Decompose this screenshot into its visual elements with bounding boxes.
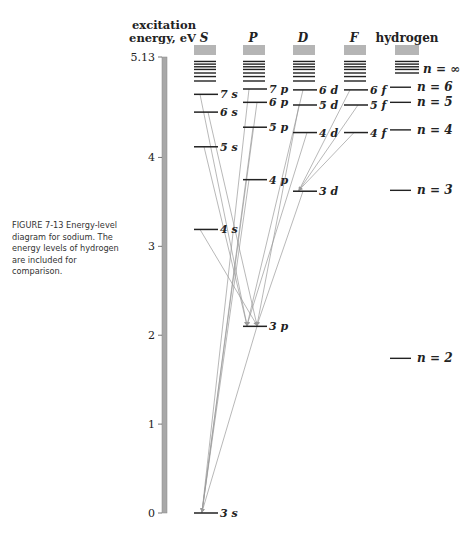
level-label-d: 5 d bbox=[319, 99, 338, 112]
level-label-s: 5 s bbox=[220, 141, 238, 154]
continuum-block bbox=[395, 45, 419, 55]
column-header-p: P bbox=[247, 31, 258, 45]
column-header-h: hydrogen bbox=[375, 31, 438, 45]
transition-line bbox=[200, 94, 247, 325]
level-label-f: 5 f bbox=[370, 99, 388, 112]
level-label-p: 6 p bbox=[269, 96, 288, 109]
axis-tick-label: 0 bbox=[148, 507, 155, 520]
energy-axis-bar bbox=[162, 57, 167, 513]
transition-line bbox=[202, 102, 257, 512]
level-label-p: 7 p bbox=[269, 83, 288, 96]
level-label-s: 7 s bbox=[220, 88, 238, 101]
level-label-h: n = 3 bbox=[417, 183, 452, 197]
continuum-block bbox=[243, 45, 265, 55]
level-label-h: n = ∞ bbox=[423, 62, 460, 76]
level-label-h: n = 5 bbox=[417, 95, 452, 109]
level-label-h: n = 2 bbox=[417, 351, 452, 365]
level-label-h: n = 6 bbox=[417, 80, 453, 94]
level-label-p: 4 p bbox=[269, 174, 288, 187]
level-label-s: 6 s bbox=[220, 106, 238, 119]
axis-tick-label: 1 bbox=[148, 418, 155, 431]
column-header-d: D bbox=[297, 31, 309, 45]
column-header-f: F bbox=[349, 31, 360, 45]
continuum-block bbox=[293, 45, 315, 55]
energy-level-diagram: 012345.13SPDFhydrogen3 s4 s5 s6 s7 s3 p4… bbox=[0, 0, 470, 539]
level-label-h: n = 4 bbox=[417, 123, 452, 137]
level-label-f: 4 f bbox=[370, 127, 388, 140]
level-label-f: 6 f bbox=[370, 84, 388, 97]
axis-tick-label: 5.13 bbox=[131, 51, 156, 64]
axis-tick-label: 2 bbox=[148, 329, 155, 342]
transition-line bbox=[257, 191, 303, 325]
column-header-s: S bbox=[200, 31, 209, 45]
level-label-s: 3 s bbox=[220, 507, 238, 520]
transition-line bbox=[299, 105, 358, 190]
level-label-p: 5 p bbox=[269, 121, 288, 134]
level-label-p: 3 p bbox=[269, 320, 288, 333]
transition-line bbox=[299, 133, 354, 191]
continuum-block bbox=[194, 45, 216, 55]
level-label-d: 3 d bbox=[319, 185, 338, 198]
transition-line bbox=[247, 133, 307, 326]
level-label-d: 4 d bbox=[319, 127, 338, 140]
level-label-d: 6 d bbox=[319, 84, 338, 97]
transition-line bbox=[257, 105, 299, 325]
level-label-s: 4 s bbox=[220, 223, 238, 236]
transition-line bbox=[202, 326, 257, 512]
continuum-block bbox=[344, 45, 366, 55]
axis-tick-label: 3 bbox=[148, 240, 155, 253]
axis-tick-label: 4 bbox=[148, 151, 155, 164]
